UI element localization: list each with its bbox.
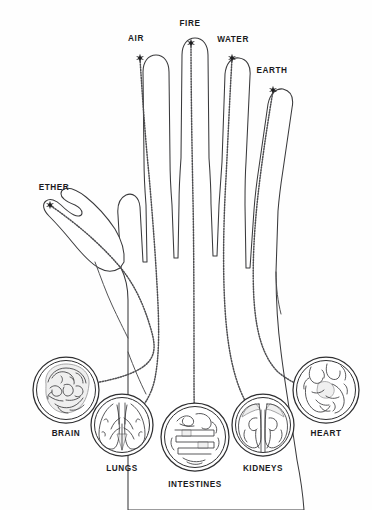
- element-label-air: AIR: [128, 34, 144, 43]
- organ-label-lungs: LUNGS: [106, 464, 137, 473]
- intestines-ring-inner: [165, 407, 226, 468]
- element-label-water: WATER: [217, 35, 249, 44]
- organ-label-intestines: INTESTINES: [168, 480, 222, 489]
- hand-element-organ-diagram: AIR FIRE WATER EARTH ETHER BRAIN: [0, 0, 372, 510]
- element-label-fire: FIRE: [180, 19, 201, 28]
- element-label-ether: ETHER: [39, 183, 70, 192]
- organ-label-heart: HEART: [311, 429, 342, 438]
- kidneys-ring-inner: [236, 398, 291, 453]
- organ-label-brain: BRAIN: [52, 429, 81, 438]
- diagram-canvas: AIR FIRE WATER EARTH ETHER BRAIN: [0, 0, 372, 510]
- element-label-earth: EARTH: [257, 66, 288, 75]
- organ-label-kidneys: KIDNEYS: [243, 464, 283, 473]
